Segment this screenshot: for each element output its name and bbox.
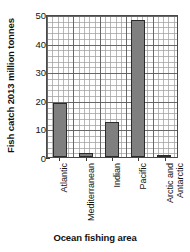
- y-tick-50: 50: [26, 11, 46, 21]
- x-tick-atlantic: Atlantic: [46, 158, 72, 228]
- bar-atlantic: [53, 103, 68, 157]
- y-tick-40: 40: [26, 40, 46, 50]
- y-axis-title: Fish catch 2013 million tonnes: [0, 0, 20, 170]
- x-tick-mark-indian: [112, 158, 113, 161]
- y-tick-0: 0: [26, 154, 46, 164]
- x-tick-label-arctic-and-antarctic: Arctic and Antarctic: [165, 163, 185, 203]
- x-tick-label-indian: Indian: [112, 163, 122, 188]
- y-tick-30: 30: [26, 68, 46, 78]
- x-axis-title: Ocean fishing area: [0, 232, 190, 243]
- y-axis-title-text: Fish catch 2013 million tonnes: [5, 18, 16, 153]
- x-tick-mark-mediterranean: [86, 158, 87, 161]
- bar-indian: [105, 122, 120, 157]
- x-tick-arctic-and-antarctic: Arctic and Antarctic: [152, 158, 178, 228]
- plot-area: [46, 15, 178, 158]
- x-tick-pacific: Pacific: [125, 158, 151, 228]
- x-tick-label-atlantic: Atlantic: [59, 163, 69, 193]
- x-tick-mediterranean: Mediterranean: [72, 158, 98, 228]
- x-tick-label-pacific: Pacific: [138, 163, 148, 190]
- bar-pacific: [131, 20, 146, 157]
- x-axis-ticks: Atlantic Mediterranean Indian Pacific Ar…: [46, 158, 178, 228]
- bar-chart-figure: Fish catch 2013 million tonnes 50 40 30 …: [0, 0, 190, 252]
- x-tick-mark-arctic-and-antarctic: [165, 158, 166, 161]
- y-tick-20: 20: [26, 97, 46, 107]
- x-tick-label-mediterranean: Mediterranean: [86, 163, 96, 221]
- bar-arctic-and-antarctic: [157, 155, 172, 157]
- x-tick-mark-atlantic: [59, 158, 60, 161]
- bar-mediterranean: [79, 153, 94, 157]
- x-tick-indian: Indian: [99, 158, 125, 228]
- y-tick-10: 10: [26, 125, 46, 135]
- y-axis-ticks: 50 40 30 20 10 0: [18, 0, 46, 252]
- x-tick-mark-pacific: [138, 158, 139, 161]
